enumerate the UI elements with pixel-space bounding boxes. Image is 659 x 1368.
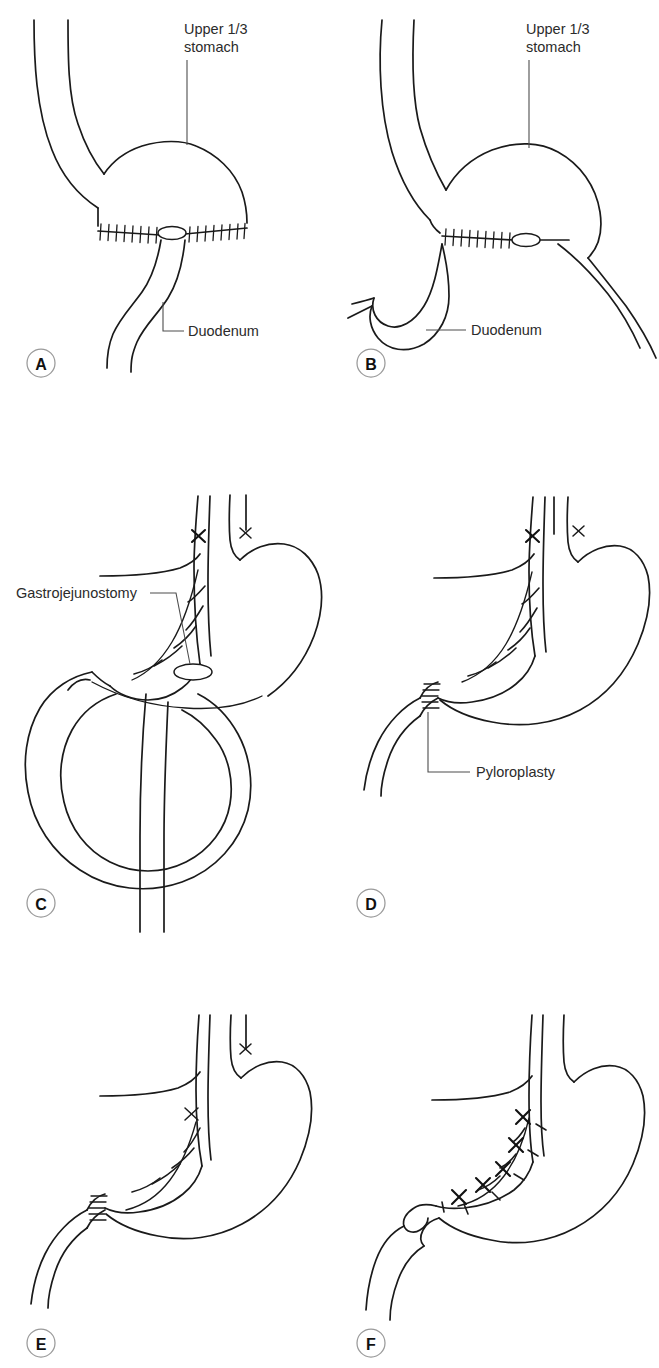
label-gastrojejunostomy-text: Gastrojejunostomy bbox=[16, 585, 138, 601]
leader-gastrojejunostomy bbox=[150, 593, 190, 664]
panel-badge-b: B bbox=[357, 349, 385, 377]
label-duodenum: Duodenum bbox=[426, 322, 542, 338]
panel-badge-d: D bbox=[357, 889, 385, 917]
vagotomy-x-anterior-icon bbox=[526, 530, 539, 542]
label-upper-third-line2: stomach bbox=[184, 39, 239, 55]
label-duodenum-text: Duodenum bbox=[188, 323, 259, 339]
panel-badge-c: C bbox=[27, 889, 55, 917]
panel-badge-a: A bbox=[27, 349, 55, 377]
label-gastrojejunostomy: Gastrojejunostomy bbox=[16, 585, 190, 664]
vagotomy-x-posterior-icon bbox=[573, 526, 584, 536]
leader-duodenum bbox=[163, 302, 184, 331]
label-duodenum: Duodenum bbox=[163, 302, 259, 339]
panel-badge-f: F bbox=[357, 1329, 385, 1357]
label-upper-third-line2: stomach bbox=[526, 39, 581, 55]
label-upper-third-stomach: Upper 1/3 stomach bbox=[184, 21, 248, 145]
panel-badge-d-letter: D bbox=[365, 896, 377, 913]
label-duodenum-text: Duodenum bbox=[471, 322, 542, 338]
panel-f: F bbox=[330, 960, 659, 1368]
panel-b: Upper 1/3 stomach Duodenum B bbox=[330, 0, 659, 400]
label-upper-third-line1: Upper 1/3 bbox=[526, 21, 590, 37]
panel-badge-f-letter: F bbox=[366, 1336, 376, 1353]
panel-d: Pyloroplasty D bbox=[330, 450, 659, 940]
panel-badge-c-letter: C bbox=[35, 896, 47, 913]
figure-canvas: Upper 1/3 stomach Duodenum A bbox=[0, 0, 659, 1368]
panel-badge-e-letter: E bbox=[36, 1336, 47, 1353]
label-pyloroplasty-text: Pyloroplasty bbox=[476, 764, 556, 780]
panel-badge-b-letter: B bbox=[365, 356, 377, 373]
panel-c: Gastrojejunostomy C bbox=[0, 450, 329, 940]
panel-a: Upper 1/3 stomach Duodenum A bbox=[0, 0, 329, 400]
pyloroplasty-sutures bbox=[89, 1196, 107, 1220]
label-upper-third-line1: Upper 1/3 bbox=[184, 21, 248, 37]
label-upper-third-stomach: Upper 1/3 stomach bbox=[526, 21, 590, 148]
pyloroplasty-sutures bbox=[422, 684, 440, 708]
leader-pyloroplasty bbox=[428, 712, 470, 772]
panel-badge-a-letter: A bbox=[35, 356, 47, 373]
panel-badge-e: E bbox=[27, 1329, 55, 1357]
vagotomy-x-anterior-icon bbox=[192, 530, 205, 542]
panel-e: E bbox=[0, 960, 329, 1368]
